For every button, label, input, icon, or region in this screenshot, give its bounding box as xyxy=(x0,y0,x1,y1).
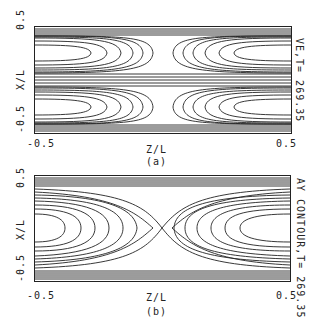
x-max-label-b: 0.5 xyxy=(276,290,297,301)
plot-title-a: VE,T= 269.35 xyxy=(294,38,305,122)
x-min-label-b: -0.5 xyxy=(27,290,55,301)
contour-plot-a xyxy=(34,26,292,134)
x-max-label-a: 0.5 xyxy=(276,138,297,149)
y-min-label-b: -0.5 xyxy=(15,254,26,282)
x-axis-label-b: Z/L xyxy=(146,292,167,303)
x-axis-label-a: Z/L xyxy=(146,144,167,155)
contour-plot-b xyxy=(34,175,291,282)
caption-a: (a) xyxy=(146,156,167,167)
caption-b: (b) xyxy=(146,306,167,317)
y-max-label-b: 0.5 xyxy=(15,167,26,188)
y-min-label-a: -0.5 xyxy=(15,105,26,133)
x-min-label-a: -0.5 xyxy=(27,138,55,149)
contour-lines-a xyxy=(35,27,291,133)
y-max-label-a: 0.5 xyxy=(15,9,26,30)
y-axis-label-b: X/L xyxy=(15,219,26,240)
contour-lines-b xyxy=(35,176,290,281)
y-axis-label-a: X/L xyxy=(15,69,26,90)
